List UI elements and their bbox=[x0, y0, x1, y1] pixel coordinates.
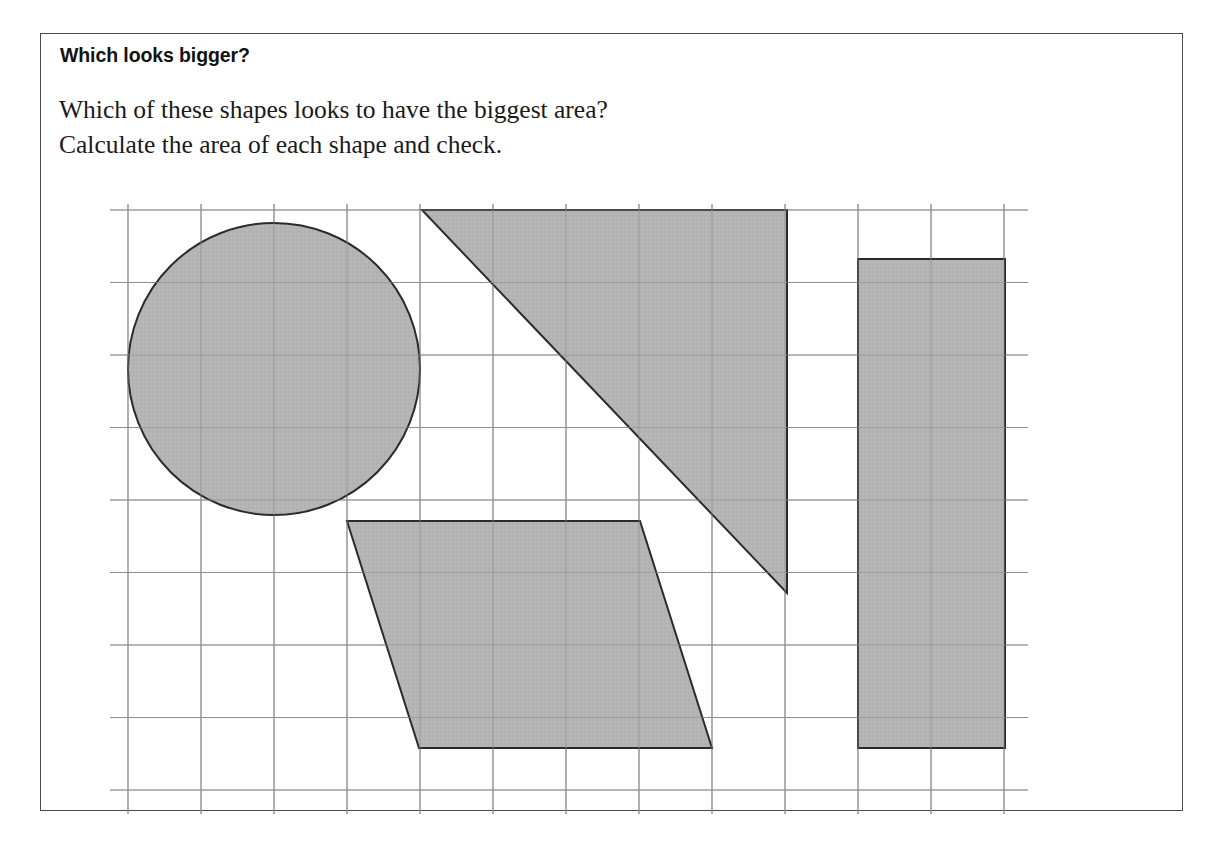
question-text: Which of these shapes looks to have the … bbox=[59, 92, 608, 162]
page-title: Which looks bigger? bbox=[60, 44, 250, 67]
question-line-2: Calculate the area of each shape and che… bbox=[59, 127, 608, 162]
question-line-1: Which of these shapes looks to have the … bbox=[59, 92, 608, 127]
